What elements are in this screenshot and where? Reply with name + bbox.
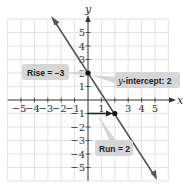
y-intercept-callout: y-intercept: 2 xyxy=(115,72,180,88)
svg-text:−2: −2 xyxy=(70,122,85,133)
y-axis xyxy=(85,15,90,181)
x-axis-arrow-icon xyxy=(169,97,176,102)
svg-text:5: 5 xyxy=(152,103,158,114)
x-axis xyxy=(8,97,176,102)
rise-callout: Rise = −3 xyxy=(22,64,69,80)
svg-text:5: 5 xyxy=(79,27,85,38)
rise-callout-pointer xyxy=(66,70,88,76)
svg-text:−4: −4 xyxy=(70,149,85,160)
y-axis-arrow-icon xyxy=(85,15,90,22)
svg-text:1: 1 xyxy=(79,81,85,92)
svg-text:4: 4 xyxy=(79,41,85,52)
svg-text:4: 4 xyxy=(138,103,144,114)
svg-text:y-intercept: 2: y-intercept: 2 xyxy=(117,76,172,86)
run-endpoint xyxy=(112,111,117,116)
run-callout: Run = 2 xyxy=(95,140,133,156)
svg-text:−3: −3 xyxy=(70,135,85,146)
x-axis-label: x xyxy=(177,94,183,107)
y-intercept-point xyxy=(85,70,90,75)
svg-text:1: 1 xyxy=(98,103,104,114)
line-arrow-up-icon xyxy=(51,16,60,26)
svg-text:−1: −1 xyxy=(70,108,85,119)
coordinate-graph: x y −5 −4 −3 −2 −1 1 3 4 5 5 4 3 2 1 −1 … xyxy=(0,0,183,190)
svg-text:Rise = −3: Rise = −3 xyxy=(27,68,65,78)
svg-text:3: 3 xyxy=(125,103,131,114)
svg-text:−5: −5 xyxy=(70,162,85,173)
svg-text:Run = 2: Run = 2 xyxy=(99,144,130,154)
y-axis-label: y xyxy=(84,3,92,16)
